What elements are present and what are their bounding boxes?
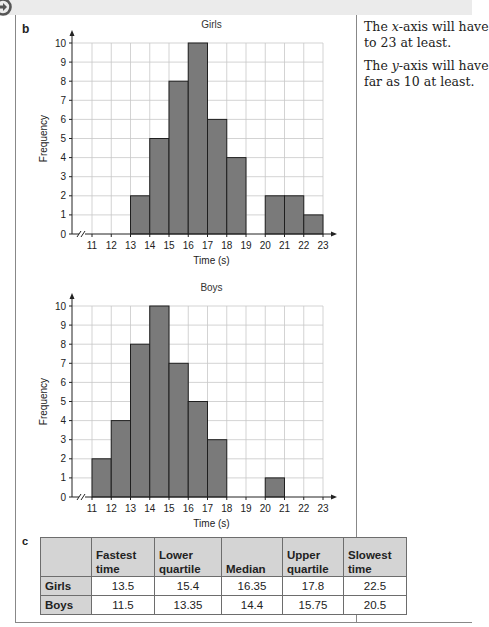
x-tick-label: 16 xyxy=(183,240,195,251)
y-tick-label: 7 xyxy=(60,358,66,369)
x-tick-label: 18 xyxy=(221,503,233,514)
histogram-bar xyxy=(285,196,304,234)
x-tick-label: 18 xyxy=(221,240,233,251)
x-tick-label: 17 xyxy=(202,240,214,251)
histogram-bar xyxy=(150,139,169,235)
y-axis-arrow-icon xyxy=(70,293,75,299)
table-column-header: Median xyxy=(222,538,283,577)
side-note-line-4: far as 10 at least. xyxy=(364,74,474,89)
table-cell: 14.4 xyxy=(222,596,283,615)
x-tick-label: 16 xyxy=(183,503,195,514)
table-cell: 16.35 xyxy=(222,577,283,596)
boys-histogram: Boys012345678910111213141516171819202122… xyxy=(0,263,356,533)
chart-title: Girls xyxy=(201,19,222,30)
x-tick-label: 19 xyxy=(240,503,252,514)
girls-histogram: Girls01234567891011121314151617181920212… xyxy=(0,0,356,270)
part-c-label: c xyxy=(22,535,28,547)
x-tick-label: 21 xyxy=(279,240,291,251)
histogram-bar xyxy=(131,344,150,497)
y-tick-label: 5 xyxy=(60,396,66,407)
table-cell: 22.5 xyxy=(344,577,407,596)
y-tick-label: 4 xyxy=(60,152,66,163)
side-note-line-1: The x-axis will have xyxy=(364,19,489,34)
y-tick-label: 9 xyxy=(60,57,66,68)
histogram-bar xyxy=(92,459,111,497)
histogram-bar xyxy=(265,478,284,497)
histogram-bar xyxy=(131,196,150,234)
x-tick-label: 13 xyxy=(125,503,137,514)
x-tick-label: 15 xyxy=(163,503,175,514)
x-axis-label: Time (s) xyxy=(193,518,229,529)
x-tick-label: 15 xyxy=(163,240,175,251)
x-tick-label: 22 xyxy=(298,240,310,251)
x-axis-arrow-icon xyxy=(331,232,337,237)
histogram-bar xyxy=(208,119,227,234)
histogram-bar xyxy=(227,158,246,234)
x-axis-arrow-icon xyxy=(331,495,337,500)
summary-stats-table: FastesttimeLowerquartileMedianUpperquart… xyxy=(40,537,407,615)
y-tick-label: 4 xyxy=(60,415,66,426)
y-tick-label: 2 xyxy=(60,190,66,201)
x-tick-label: 23 xyxy=(317,503,329,514)
y-tick-label: 6 xyxy=(60,377,66,388)
table-row-header: Boys xyxy=(41,596,92,615)
y-tick-label: 3 xyxy=(60,171,66,182)
table-column-header: Upperquartile xyxy=(283,538,344,577)
table-cell: 15.75 xyxy=(283,596,344,615)
table-column-header: Slowesttime xyxy=(344,538,407,577)
table-row-header: Girls xyxy=(41,577,92,596)
bottom-border xyxy=(15,622,472,623)
x-tick-label: 11 xyxy=(87,503,98,514)
table-cell: 11.5 xyxy=(92,596,155,615)
y-axis-label: Frequency xyxy=(38,378,49,425)
y-tick-label: 2 xyxy=(60,453,66,464)
y-tick-label: 9 xyxy=(60,320,66,331)
x-tick-label: 14 xyxy=(144,503,156,514)
y-tick-label: 1 xyxy=(60,209,66,220)
y-tick-label: 10 xyxy=(55,301,67,312)
y-tick-label: 3 xyxy=(60,434,66,445)
histogram-bar xyxy=(265,196,284,234)
histogram-bar xyxy=(304,215,323,234)
histogram-bar xyxy=(111,421,130,497)
x-tick-label: 21 xyxy=(279,503,291,514)
table-corner-cell xyxy=(41,538,92,577)
table-cell: 13.35 xyxy=(155,596,222,615)
y-axis-label: Frequency xyxy=(38,115,49,162)
x-tick-label: 14 xyxy=(144,240,156,251)
x-tick-label: 12 xyxy=(106,240,118,251)
histogram-bar xyxy=(188,43,207,234)
histogram-bar xyxy=(169,81,188,234)
y-tick-label: 6 xyxy=(60,114,66,125)
x-tick-label: 23 xyxy=(317,240,329,251)
y-tick-label: 0 xyxy=(60,229,66,240)
table-cell: 20.5 xyxy=(344,596,407,615)
y-tick-label: 5 xyxy=(60,133,66,144)
table-cell: 13.5 xyxy=(92,577,155,596)
table-header-row: FastesttimeLowerquartileMedianUpperquart… xyxy=(41,538,407,577)
y-tick-label: 1 xyxy=(60,472,66,483)
y-tick-label: 7 xyxy=(60,95,66,106)
x-tick-label: 22 xyxy=(298,503,310,514)
table-column-header: Lowerquartile xyxy=(155,538,222,577)
x-tick-label: 11 xyxy=(87,240,98,251)
x-tick-label: 12 xyxy=(106,503,118,514)
side-note-line-3: The y-axis will have xyxy=(364,58,489,73)
histogram-bar xyxy=(150,306,169,497)
y-tick-label: 0 xyxy=(60,492,66,503)
x-tick-label: 17 xyxy=(202,503,214,514)
histogram-bar xyxy=(169,363,188,497)
histogram-bar xyxy=(208,440,227,497)
table-cell: 17.8 xyxy=(283,577,344,596)
table-column-header: Fastesttime xyxy=(92,538,155,577)
y-axis-arrow-icon xyxy=(70,30,75,36)
table-row: Boys11.513.3514.415.7520.5 xyxy=(41,596,407,615)
histogram-bar xyxy=(188,402,207,498)
x-tick-label: 19 xyxy=(240,240,252,251)
table-row: Girls13.515.416.3517.822.5 xyxy=(41,577,407,596)
chart-title: Boys xyxy=(200,282,222,293)
y-tick-label: 8 xyxy=(60,76,66,87)
column-divider xyxy=(356,15,357,622)
x-tick-label: 20 xyxy=(260,240,272,251)
x-tick-label: 13 xyxy=(125,240,137,251)
